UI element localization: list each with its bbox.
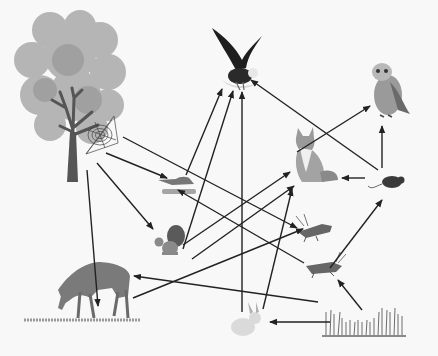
owl-icon bbox=[372, 63, 410, 117]
arrow-fox-to-owl bbox=[297, 106, 370, 152]
arrow-squirrel-to-fox bbox=[183, 172, 290, 245]
arrow-grass-to-deer bbox=[134, 276, 318, 302]
grass-icon bbox=[322, 308, 406, 336]
arrow-grasshopper2-to-mouse bbox=[330, 200, 382, 268]
tree-icon bbox=[14, 10, 126, 182]
eagle-icon bbox=[212, 28, 262, 90]
arrow-tree-to-grasshopper1 bbox=[123, 137, 297, 228]
squirrel-icon bbox=[155, 225, 186, 255]
mouse-icon bbox=[368, 176, 405, 188]
food-web-arrows bbox=[87, 80, 382, 322]
fox-icon bbox=[296, 127, 338, 182]
arrow-squirrel-to-eagle bbox=[183, 91, 233, 249]
arrow-grass-to-grasshopper2 bbox=[338, 280, 362, 310]
arrow-bird-to-eagle bbox=[186, 89, 222, 175]
deer-icon bbox=[24, 262, 140, 320]
arrow-rabbit-to-fox bbox=[263, 189, 292, 309]
food-web-diagram bbox=[0, 0, 438, 356]
arrow-tree-to-bird bbox=[106, 153, 167, 178]
arrow-tree-to-squirrel bbox=[97, 163, 153, 229]
small-bird-icon bbox=[158, 177, 196, 194]
food-web-canvas bbox=[0, 0, 438, 356]
arrow-grasshopper2-to-bird bbox=[178, 190, 304, 263]
grasshopper-icon bbox=[296, 214, 332, 242]
rabbit-icon bbox=[231, 302, 261, 336]
